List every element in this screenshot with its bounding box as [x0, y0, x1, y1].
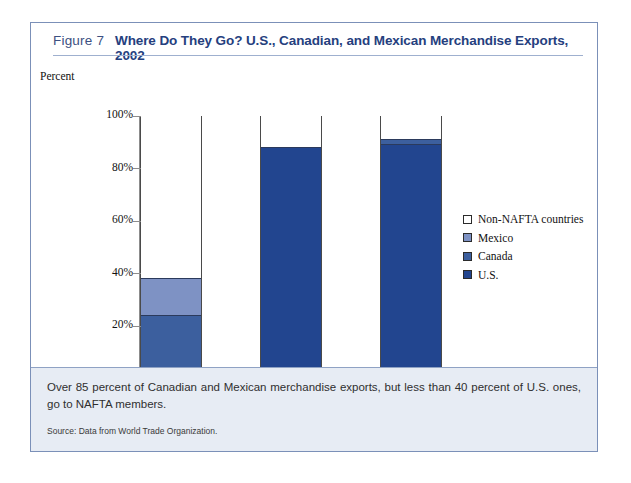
bar-segment: [141, 115, 201, 278]
y-axis-tick-label: 80%: [79, 161, 133, 173]
legend-label: Canada: [478, 250, 512, 262]
source-note: Source: Data from World Trade Organizati…: [47, 426, 217, 436]
y-axis-unit-label: Percent: [40, 70, 74, 82]
y-axis-tick-label: 100%: [79, 108, 133, 120]
legend-label: U.S.: [478, 269, 498, 281]
bar-segment: [141, 278, 201, 315]
legend-label: Non-NAFTA countries: [478, 213, 583, 225]
figure-header: Figure 7 Where Do They Go? U.S., Canadia…: [31, 23, 597, 61]
y-axis-tick-label: 20%: [79, 318, 133, 330]
bar-segment: [261, 147, 321, 378]
bar-segment: [381, 139, 441, 144]
bar-segment: [381, 144, 441, 378]
bar-2: [260, 116, 322, 379]
legend-item: Canada: [463, 250, 593, 262]
bar-segment: [381, 115, 441, 139]
caption-panel: Over 85 percent of Canadian and Mexican …: [31, 367, 597, 451]
figure-title: Where Do They Go? U.S., Canadian, and Me…: [115, 33, 583, 63]
y-axis-tick: [133, 221, 141, 222]
y-axis-tick: [133, 116, 141, 117]
legend-swatch-icon: [463, 233, 472, 242]
legend-item: Non-NAFTA countries: [463, 213, 593, 225]
legend-item: U.S.: [463, 269, 593, 281]
title-divider: [53, 55, 583, 56]
chart-plot-area: Percent 0%20%40%60%80%100% Share of U.S.…: [31, 61, 597, 391]
chart-legend: Non-NAFTA countriesMexicoCanadaU.S.: [463, 213, 593, 287]
y-axis-tick: [133, 273, 141, 274]
legend-swatch-icon: [463, 270, 472, 279]
figure-number: Figure 7: [53, 33, 104, 48]
bar-segment: [261, 115, 321, 147]
bar-1: [140, 116, 202, 379]
caption-text: Over 85 percent of Canadian and Mexican …: [47, 379, 581, 412]
legend-label: Mexico: [478, 232, 513, 244]
legend-swatch-icon: [463, 252, 472, 261]
y-axis-tick: [133, 326, 141, 327]
y-axis-tick-label: 60%: [79, 213, 133, 225]
legend-item: Mexico: [463, 232, 593, 244]
y-axis-tick: [133, 168, 141, 169]
y-axis-tick-label: 40%: [79, 266, 133, 278]
y-axis-labels: 0%20%40%60%80%100%: [71, 61, 133, 391]
legend-swatch-icon: [463, 215, 472, 224]
bar-3: [380, 116, 442, 379]
figure-container: Figure 7 Where Do They Go? U.S., Canadia…: [30, 22, 598, 452]
